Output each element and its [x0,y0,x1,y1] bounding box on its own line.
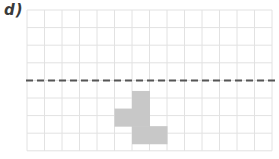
shape-cell [115,109,133,127]
grey-shape [115,91,168,144]
shape-cell [132,109,150,127]
shape-cell [132,91,150,109]
shape-cell [132,126,150,144]
grid-figure [0,0,279,159]
shape-cell [150,126,168,144]
